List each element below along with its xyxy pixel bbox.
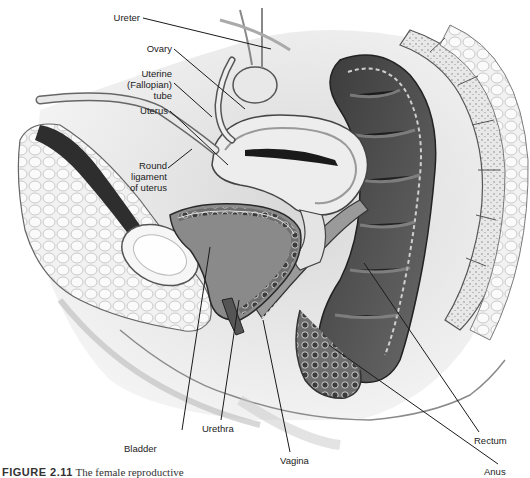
figure-caption: FIGURE 2.11 The female reproductive bbox=[2, 466, 184, 478]
label-round-ligament-line2: ligament bbox=[115, 171, 167, 182]
label-uterine-tube-line1: Uterine bbox=[122, 68, 172, 79]
label-anus: Anus bbox=[484, 466, 506, 477]
label-vagina: Vagina bbox=[280, 455, 309, 466]
label-round-ligament: Round ligament of uterus bbox=[115, 160, 167, 193]
label-uterus: Uterus bbox=[130, 105, 168, 116]
label-ovary: Ovary bbox=[140, 43, 172, 54]
label-urethra: Urethra bbox=[202, 423, 234, 434]
ovary bbox=[233, 67, 277, 103]
label-ureter: Ureter bbox=[108, 12, 140, 23]
label-bladder: Bladder bbox=[124, 443, 157, 454]
label-rectum: Rectum bbox=[474, 435, 507, 446]
caption-text: The female reproductive bbox=[75, 466, 183, 478]
label-uterine-tube-line2: (Fallopian) bbox=[122, 79, 172, 90]
label-round-ligament-line1: Round bbox=[115, 160, 167, 171]
label-uterine-tube: Uterine (Fallopian) tube bbox=[122, 68, 172, 101]
label-uterine-tube-line3: tube bbox=[122, 90, 172, 101]
label-round-ligament-line3: of uterus bbox=[115, 182, 167, 193]
caption-number: FIGURE 2.11 bbox=[2, 466, 73, 478]
